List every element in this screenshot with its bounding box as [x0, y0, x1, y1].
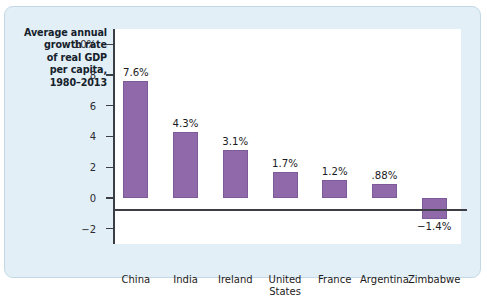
category-label-line: States	[249, 286, 321, 298]
y-axis-tick-label: 8	[90, 70, 96, 81]
zero-baseline	[113, 209, 467, 211]
y-axis-line	[113, 29, 115, 244]
bar	[223, 150, 248, 198]
y-axis-tick-label: 10%	[74, 39, 96, 50]
y-axis-tick: −2	[106, 228, 113, 229]
plot-area: 10%86420−2 7.6%4.3%3.1%1.7%1.2%.88%−1.4%	[113, 29, 461, 244]
y-axis-tick: 10%	[106, 44, 113, 45]
bar	[372, 184, 397, 198]
y-axis-tick: 0	[106, 197, 113, 198]
y-axis-tick-label: 4	[90, 131, 96, 142]
figure-panel: Average annual growth rate of real GDP p…	[4, 6, 481, 278]
y-axis-tick-label: 6	[90, 100, 96, 111]
axis-title-line: Average annual	[11, 27, 107, 39]
y-axis-tick-label: −2	[81, 223, 96, 234]
bar-value-label: 3.1%	[200, 136, 270, 147]
bar-value-label: .88%	[349, 170, 419, 181]
y-axis-tick: 6	[106, 105, 113, 106]
bar	[123, 81, 148, 198]
axis-title-line: of real GDP	[11, 52, 107, 64]
bar	[273, 172, 298, 198]
y-axis-tick-label: 0	[90, 192, 96, 203]
category-label-line: Zimbabwe	[398, 274, 470, 286]
bar	[173, 132, 198, 198]
x-axis-category-label: Zimbabwe	[398, 274, 470, 286]
bar-value-label: 7.6%	[101, 67, 171, 78]
bar	[322, 180, 347, 198]
y-axis-tick-label: 2	[90, 162, 96, 173]
plot-canvas	[113, 29, 461, 244]
bar-value-label: −1.4%	[399, 221, 469, 232]
bar-value-label: 4.3%	[151, 118, 221, 129]
y-axis-tick: 4	[106, 136, 113, 137]
y-axis-tick: 2	[106, 167, 113, 168]
